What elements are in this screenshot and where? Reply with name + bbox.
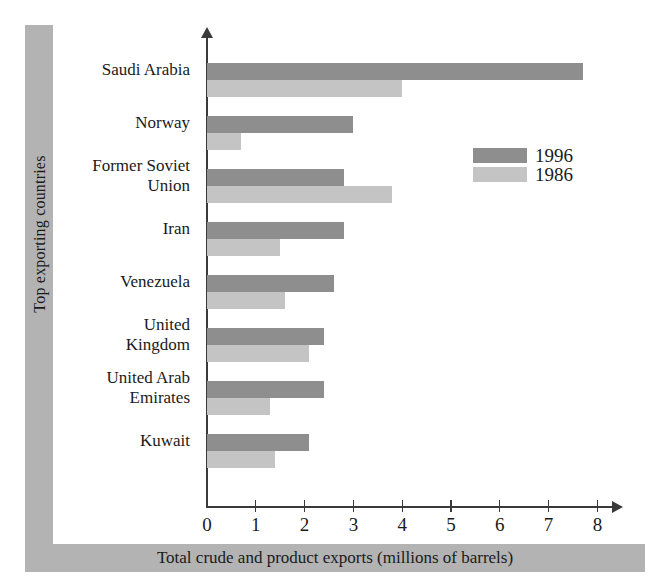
bar-1986 bbox=[207, 133, 241, 150]
x-axis-tick-label: 3 bbox=[338, 514, 368, 536]
category-label: Saudi Arabia bbox=[8, 60, 206, 80]
bar-1986 bbox=[207, 292, 285, 309]
bar-1996 bbox=[207, 169, 344, 186]
x-axis-tick bbox=[450, 500, 451, 512]
x-axis-tick bbox=[353, 500, 354, 512]
x-axis-tick-label: 2 bbox=[290, 514, 320, 536]
bar-1986 bbox=[207, 186, 392, 203]
x-axis-tick-label: 8 bbox=[582, 514, 612, 536]
legend-swatch-1996 bbox=[473, 148, 527, 163]
plot-area: 012345678 Saudi ArabiaNorwayFormer Sovie… bbox=[0, 0, 652, 585]
x-axis-tick-label: 1 bbox=[241, 514, 271, 536]
category-label-line: United bbox=[8, 315, 198, 335]
category-label: United ArabEmirates bbox=[8, 368, 206, 408]
category-label-line: Saudi Arabia bbox=[8, 60, 198, 80]
x-axis-tick bbox=[597, 500, 598, 512]
x-axis-tick bbox=[402, 500, 403, 512]
bar-1996 bbox=[207, 222, 344, 239]
x-axis-tick-label: 6 bbox=[485, 514, 515, 536]
category-label: Iran bbox=[8, 219, 206, 239]
bar-1996 bbox=[207, 275, 334, 292]
category-label-line: United Arab bbox=[8, 368, 198, 388]
category-label-line: Kingdom bbox=[8, 335, 198, 355]
x-axis-tick-label: 0 bbox=[192, 514, 222, 536]
category-label-line: Kuwait bbox=[8, 431, 198, 451]
bar-1986 bbox=[207, 345, 309, 362]
category-label: Kuwait bbox=[8, 431, 206, 451]
category-label: Norway bbox=[8, 113, 206, 133]
legend-label-1986: 1986 bbox=[535, 164, 573, 186]
category-label: UnitedKingdom bbox=[8, 315, 206, 355]
y-axis-arrow-icon bbox=[201, 27, 213, 38]
x-axis-tick-label: 5 bbox=[436, 514, 466, 536]
bar-1986 bbox=[207, 80, 402, 97]
category-label: Former SovietUnion bbox=[8, 156, 206, 196]
x-axis-tick-label: 4 bbox=[387, 514, 417, 536]
category-label-line: Union bbox=[8, 176, 198, 196]
bar-1996 bbox=[207, 434, 309, 451]
category-label-line: Norway bbox=[8, 113, 198, 133]
bar-1986 bbox=[207, 451, 275, 468]
bar-1996 bbox=[207, 116, 353, 133]
x-axis-tick bbox=[255, 500, 256, 512]
x-axis-tick-label: 7 bbox=[534, 514, 564, 536]
category-label-line: Former Soviet bbox=[8, 156, 198, 176]
bar-1996 bbox=[207, 381, 324, 398]
category-label-line: Venezuela bbox=[8, 272, 198, 292]
bar-1996 bbox=[207, 63, 583, 80]
bar-1996 bbox=[207, 328, 324, 345]
x-axis-tick bbox=[499, 500, 500, 512]
x-axis-tick bbox=[548, 500, 549, 512]
category-label-line: Emirates bbox=[8, 388, 198, 408]
x-axis-tick bbox=[304, 500, 305, 512]
bar-1986 bbox=[207, 398, 270, 415]
category-label-line: Iran bbox=[8, 219, 198, 239]
bar-1986 bbox=[207, 239, 280, 256]
legend-swatch-1986 bbox=[473, 167, 527, 182]
category-label: Venezuela bbox=[8, 272, 206, 292]
x-axis-arrow-icon bbox=[612, 501, 623, 513]
chart-page: Top exporting countries Total crude and … bbox=[0, 0, 652, 585]
x-axis-line bbox=[206, 506, 616, 508]
